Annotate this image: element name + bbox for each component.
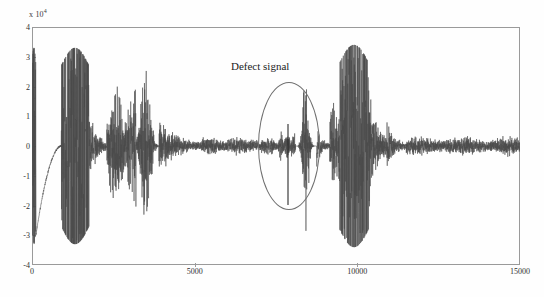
defect-region-ellipse — [258, 82, 320, 210]
y-tick-label: 0 — [4, 142, 30, 151]
y-tick-label: -1 — [4, 171, 30, 180]
exponent-power: 4 — [44, 8, 47, 14]
y-axis-labels: 43210-1-2-3-4 — [0, 0, 30, 297]
y-tick-label: 4 — [4, 23, 30, 32]
x-tick-label: 5000 — [187, 267, 203, 276]
signal-figure: x 104 43210-1-2-3-4 050001000015000 Defe… — [0, 0, 544, 297]
exponent-prefix: x 10 — [29, 10, 44, 19]
y-tick-label: -3 — [4, 231, 30, 240]
x-axis-labels: 050001000015000 — [0, 267, 544, 285]
y-tick-label: 3 — [4, 52, 30, 61]
y-axis-exponent-label: x 104 — [29, 8, 47, 19]
x-tick-label: 15000 — [510, 267, 530, 276]
defect-signal-annotation-label: Defect signal — [231, 60, 289, 72]
x-tick-label: 0 — [30, 267, 34, 276]
y-tick-label: 1 — [4, 112, 30, 121]
y-tick-label: 2 — [4, 82, 30, 91]
x-tick-label: 10000 — [347, 267, 367, 276]
y-tick-label: -2 — [4, 201, 30, 210]
